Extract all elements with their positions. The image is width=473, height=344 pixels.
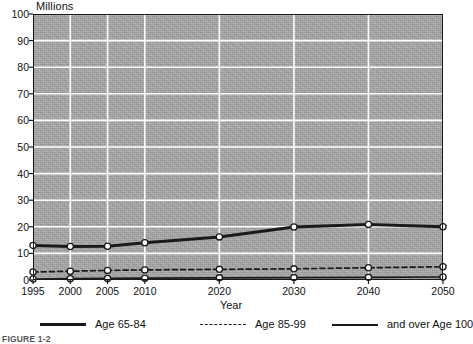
x-axis-tick-label: 1995 (21, 285, 44, 297)
x-axis-tick-label: 2050 (431, 285, 454, 297)
x-axis-tick-labels: 19952000200520102020203020402050 (33, 284, 443, 298)
legend-item: and over Age 100 (332, 316, 473, 332)
figure-caption: FIGURE 1-2 (2, 334, 51, 344)
x-axis-tick-label: 2020 (208, 285, 231, 297)
legend-item-label: and over Age 100 (387, 318, 473, 331)
y-axis-tick-label: 40 (3, 168, 29, 179)
y-axis-unit-label: Millions (36, 0, 73, 13)
chart-svg (33, 14, 443, 280)
legend-item: Age 65-84 (40, 316, 146, 332)
x-axis-title: Year (0, 299, 462, 312)
x-axis-tick-label: 2010 (133, 285, 156, 297)
x-axis-tick-label: 2030 (282, 285, 305, 297)
x-axis-tick-label: 2000 (59, 285, 82, 297)
x-axis-tick-label: 2040 (357, 285, 380, 297)
x-axis-tick-label: 2005 (96, 285, 119, 297)
legend-item: Age 85-99 (200, 316, 306, 332)
legend-line-swatch-icon (332, 319, 378, 329)
y-axis-tick-label: 10 (3, 248, 29, 259)
y-axis-tick-label: 0 (3, 275, 29, 286)
y-axis-tick-label: 70 (3, 88, 29, 99)
legend-line-swatch-icon (40, 319, 86, 329)
chart-legend: Age 65-84Age 85-99and over Age 100 (0, 316, 462, 332)
legend-item-label: Age 65-84 (95, 318, 146, 331)
y-axis-tick-label: 90 (3, 35, 29, 46)
y-axis-tick-label: 80 (3, 62, 29, 73)
y-axis-tick-labels: 0102030405060708090100 (0, 14, 29, 280)
legend-item-label: Age 85-99 (255, 318, 306, 331)
y-axis-tick-label: 20 (3, 221, 29, 232)
y-axis-tick-label: 50 (3, 142, 29, 153)
y-axis-tick-label: 60 (3, 115, 29, 126)
plot-area (33, 14, 443, 280)
y-axis-tick-label: 100 (3, 9, 29, 20)
legend-line-swatch-icon (200, 319, 246, 329)
y-axis-tick-label: 30 (3, 195, 29, 206)
